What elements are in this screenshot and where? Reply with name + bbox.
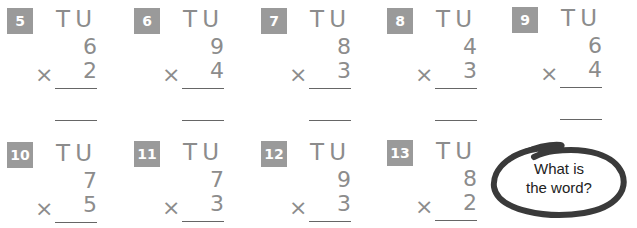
problem-number-badge: 12 (261, 141, 287, 167)
operation-line (182, 221, 224, 222)
problem-number-badge: 9 (512, 7, 538, 33)
problem-number-badge: 7 (261, 8, 287, 34)
problem-number-badge: 8 (387, 8, 413, 34)
problem-12: 12 TU 9 × 3 (261, 141, 371, 228)
problem-number-badge: 11 (134, 141, 160, 167)
problem-6: 6 TU 9 × 4 (134, 8, 244, 118)
question-bubble: What is the word? (488, 137, 630, 221)
operation-line (435, 220, 477, 221)
tens-units-header: TU (179, 6, 224, 32)
answer-line[interactable] (182, 120, 224, 121)
problem-10: 10 TU 7 × 5 (7, 142, 117, 228)
operation-line (55, 222, 97, 223)
multiplicand: 9 (337, 167, 351, 192)
problem-13: 13 TU 8 × 2 (387, 140, 497, 228)
multiplicand: 6 (588, 33, 602, 58)
times-sign: × (289, 62, 307, 87)
operation-line (182, 88, 224, 89)
problem-number-badge: 13 (387, 140, 413, 166)
multiplicand: 9 (210, 34, 224, 59)
problem-number-badge: 10 (7, 142, 33, 168)
problem-11: 11 TU 7 × 3 (134, 141, 244, 228)
problem-number-badge: 6 (134, 8, 160, 34)
times-sign: × (540, 61, 558, 86)
problem-8: 8 TU 4 × 3 (387, 8, 497, 118)
operation-line (309, 88, 351, 89)
problem-7: 7 TU 8 × 3 (261, 8, 371, 118)
times-sign: × (289, 195, 307, 220)
tens-units-header: TU (52, 140, 97, 166)
tens-units-header: TU (432, 138, 477, 164)
tens-units-header: TU (306, 6, 351, 32)
tens-units-header: TU (52, 6, 97, 32)
multiplier: 2 (83, 58, 97, 83)
multiplicand: 6 (83, 34, 97, 59)
times-sign: × (162, 62, 180, 87)
operation-line (560, 87, 602, 88)
problem-5: 5 TU 6 × 2 (7, 8, 117, 118)
answer-line[interactable] (560, 119, 602, 120)
multiplier: 4 (588, 57, 602, 82)
answer-line[interactable] (309, 120, 351, 121)
tens-units-header: TU (179, 139, 224, 165)
multiplier: 4 (210, 58, 224, 83)
operation-line (309, 221, 351, 222)
tens-units-header: TU (432, 6, 477, 32)
times-sign: × (415, 194, 433, 219)
times-sign: × (162, 195, 180, 220)
tens-units-header: TU (557, 5, 602, 31)
times-sign: × (35, 196, 53, 221)
answer-line[interactable] (55, 120, 97, 121)
tens-units-header: TU (306, 139, 351, 165)
multiplier: 3 (337, 58, 351, 83)
multiplier: 3 (210, 191, 224, 216)
times-sign: × (35, 62, 53, 87)
answer-line[interactable] (435, 120, 477, 121)
multiplier: 3 (463, 58, 477, 83)
multiplier: 5 (83, 192, 97, 217)
multiplicand: 4 (463, 34, 477, 59)
multiplicand: 7 (210, 167, 224, 192)
multiplier: 3 (337, 191, 351, 216)
bubble-text: What is the word? (488, 159, 630, 197)
problem-number-badge: 5 (7, 8, 33, 34)
operation-line (435, 88, 477, 89)
operation-line (55, 88, 97, 89)
multiplicand: 8 (463, 166, 477, 191)
times-sign: × (415, 62, 433, 87)
multiplicand: 7 (83, 168, 97, 193)
problem-9: 9 TU 6 × 4 (512, 7, 622, 117)
multiplicand: 8 (337, 34, 351, 59)
multiplier: 2 (463, 190, 477, 215)
